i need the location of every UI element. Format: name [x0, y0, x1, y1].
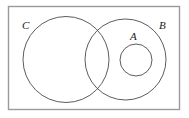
set-label-b: B — [159, 19, 166, 31]
set-circle-a — [120, 44, 152, 76]
venn-diagram-canvas: C A B — [0, 0, 189, 118]
set-label-a: A — [129, 30, 137, 42]
universal-set-rectangle — [9, 7, 180, 110]
set-circle-c — [23, 17, 109, 103]
set-label-c: C — [22, 19, 30, 31]
venn-diagram-figure: C A B — [0, 0, 189, 118]
set-circle-b — [85, 19, 166, 100]
